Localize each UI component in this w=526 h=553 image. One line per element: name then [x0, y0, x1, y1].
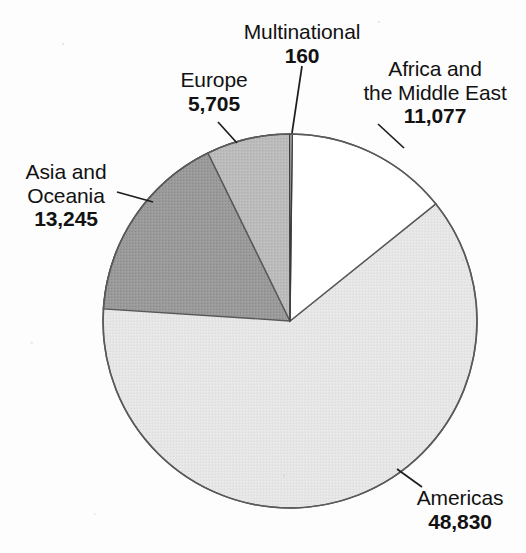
slice-label-europe-name: Europe	[150, 68, 278, 92]
leader-line-multinational	[292, 66, 302, 133]
slice-label-americas-name: Americas	[398, 486, 522, 510]
slice-label-americas-value: 48,830	[398, 510, 522, 534]
slice-label-europe: Europe 5,705	[150, 68, 278, 115]
pie-chart-figure: Multinational 160 Africa and the Middle …	[0, 0, 526, 553]
slice-label-americas: Americas 48,830	[398, 486, 522, 533]
leader-line-africa	[378, 124, 404, 148]
slice-label-africa-middle-east: Africa and the Middle East 11,077	[344, 57, 526, 128]
leader-line-americas	[397, 469, 422, 487]
slice-label-europe-value: 5,705	[150, 92, 278, 116]
slice-label-asia-name-line1: Asia and	[4, 160, 128, 184]
leader-line-europe	[218, 122, 237, 143]
slice-label-multinational-name: Multinational	[228, 20, 376, 44]
slice-label-asia-oceania: Asia and Oceania 13,245	[4, 160, 128, 231]
slice-label-africa-name-line2: the Middle East	[344, 81, 526, 105]
slice-label-africa-name-line1: Africa and	[344, 57, 526, 81]
slice-label-africa-value: 11,077	[344, 104, 526, 128]
slice-label-asia-value: 13,245	[4, 207, 128, 231]
slice-label-asia-name-line2: Oceania	[4, 184, 128, 208]
